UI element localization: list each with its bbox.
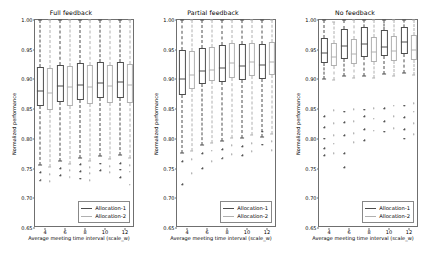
outlier-marker bbox=[271, 140, 273, 142]
boxplot-group bbox=[269, 20, 275, 226]
x-tick-mark bbox=[65, 228, 66, 230]
whisker-lower bbox=[222, 82, 223, 141]
whisker-upper bbox=[60, 20, 61, 65]
median-line bbox=[77, 84, 83, 85]
whisker-lower bbox=[182, 95, 183, 153]
y-tick-mark bbox=[33, 198, 35, 199]
whisker-lower bbox=[89, 104, 90, 160]
outlier-marker bbox=[202, 152, 204, 154]
cap-upper bbox=[210, 20, 214, 21]
boxplot-group bbox=[87, 20, 93, 226]
boxplot-group bbox=[97, 20, 103, 226]
y-tick-mark bbox=[33, 79, 35, 80]
outlier-marker bbox=[393, 115, 395, 117]
outlier-marker bbox=[333, 134, 335, 136]
whisker-lower bbox=[120, 98, 121, 155]
x-tick-mark bbox=[85, 228, 86, 230]
cap-lower bbox=[270, 133, 274, 134]
cap-upper bbox=[372, 20, 376, 21]
outlier-marker bbox=[413, 133, 415, 135]
box bbox=[219, 45, 225, 82]
boxplot-group bbox=[77, 20, 83, 226]
outlier-marker bbox=[384, 120, 386, 122]
outlier-marker bbox=[231, 154, 233, 156]
outlier-marker bbox=[353, 142, 355, 144]
median-line bbox=[57, 85, 63, 86]
whisker-upper bbox=[333, 22, 334, 42]
outlier-marker bbox=[89, 167, 91, 169]
cap-lower bbox=[362, 75, 366, 76]
outlier-marker bbox=[324, 115, 326, 117]
whisker-lower bbox=[353, 64, 354, 78]
median-line bbox=[87, 86, 93, 87]
cap-lower bbox=[220, 140, 224, 141]
cap-upper bbox=[332, 22, 336, 23]
legend-entry: Allocation-1 bbox=[81, 204, 126, 212]
y-tick-mark bbox=[175, 109, 177, 110]
outlier-marker bbox=[404, 138, 406, 140]
whisker-lower bbox=[202, 84, 203, 145]
outlier-marker bbox=[80, 178, 82, 180]
y-tick-mark bbox=[175, 198, 177, 199]
outlier-marker bbox=[69, 176, 71, 178]
whisker-lower bbox=[231, 78, 232, 139]
median-line bbox=[401, 41, 407, 42]
boxplot-group bbox=[57, 20, 63, 226]
box bbox=[391, 36, 397, 61]
boxplot-group bbox=[321, 20, 327, 226]
y-axis-label-text: Normalized performance bbox=[153, 93, 159, 155]
box bbox=[107, 65, 113, 104]
box bbox=[37, 67, 43, 106]
x-tick-mark bbox=[125, 228, 126, 230]
legend: Allocation-1Allocation-2 bbox=[362, 201, 414, 223]
box bbox=[361, 27, 367, 58]
boxplot-group bbox=[371, 20, 377, 226]
outlier-marker bbox=[333, 110, 335, 112]
y-tick-mark bbox=[33, 168, 35, 169]
box bbox=[269, 42, 275, 75]
outlier-marker bbox=[80, 170, 82, 172]
cap-upper bbox=[250, 20, 254, 21]
whisker-upper bbox=[211, 20, 212, 47]
panel-1: Partial feedbackNormalized performance1.… bbox=[142, 0, 284, 259]
whisker-lower bbox=[364, 57, 365, 75]
cap-upper bbox=[412, 20, 416, 21]
panel-2: No feedbackNormalized performance1.000.9… bbox=[284, 0, 426, 259]
boxplot-group bbox=[179, 20, 185, 226]
x-tick-mark bbox=[247, 228, 248, 230]
panel-title: Full feedback bbox=[0, 9, 142, 16]
outlier-marker bbox=[191, 158, 193, 160]
whisker-lower bbox=[271, 75, 272, 134]
boxplot-group bbox=[361, 20, 367, 226]
whisker-upper bbox=[191, 20, 192, 51]
median-line bbox=[37, 90, 43, 91]
cap-lower bbox=[200, 144, 204, 145]
whisker-upper bbox=[262, 20, 263, 44]
cap-upper bbox=[362, 20, 366, 21]
cap-upper bbox=[190, 20, 194, 21]
outlier-marker bbox=[182, 161, 184, 163]
outlier-marker bbox=[344, 121, 346, 123]
median-line bbox=[117, 82, 123, 83]
box bbox=[249, 43, 255, 76]
outlier-marker bbox=[129, 184, 131, 186]
cap-lower bbox=[260, 137, 264, 138]
outlier-marker bbox=[262, 131, 264, 133]
y-tick-mark bbox=[317, 20, 319, 21]
outlier-marker bbox=[129, 171, 131, 173]
outlier-marker bbox=[404, 117, 406, 119]
whisker-lower bbox=[211, 81, 212, 143]
box bbox=[229, 43, 235, 77]
whisker-upper bbox=[413, 20, 414, 35]
cap-upper bbox=[392, 20, 396, 21]
outlier-marker bbox=[344, 111, 346, 113]
cap-lower bbox=[382, 74, 386, 75]
outlier-marker bbox=[211, 161, 213, 163]
cap-lower bbox=[78, 157, 82, 158]
cap-lower bbox=[38, 165, 42, 166]
whisker-upper bbox=[393, 20, 394, 36]
outlier-marker bbox=[413, 102, 415, 104]
y-tick-mark bbox=[33, 20, 35, 21]
median-line bbox=[249, 62, 255, 63]
median-line bbox=[269, 61, 275, 62]
